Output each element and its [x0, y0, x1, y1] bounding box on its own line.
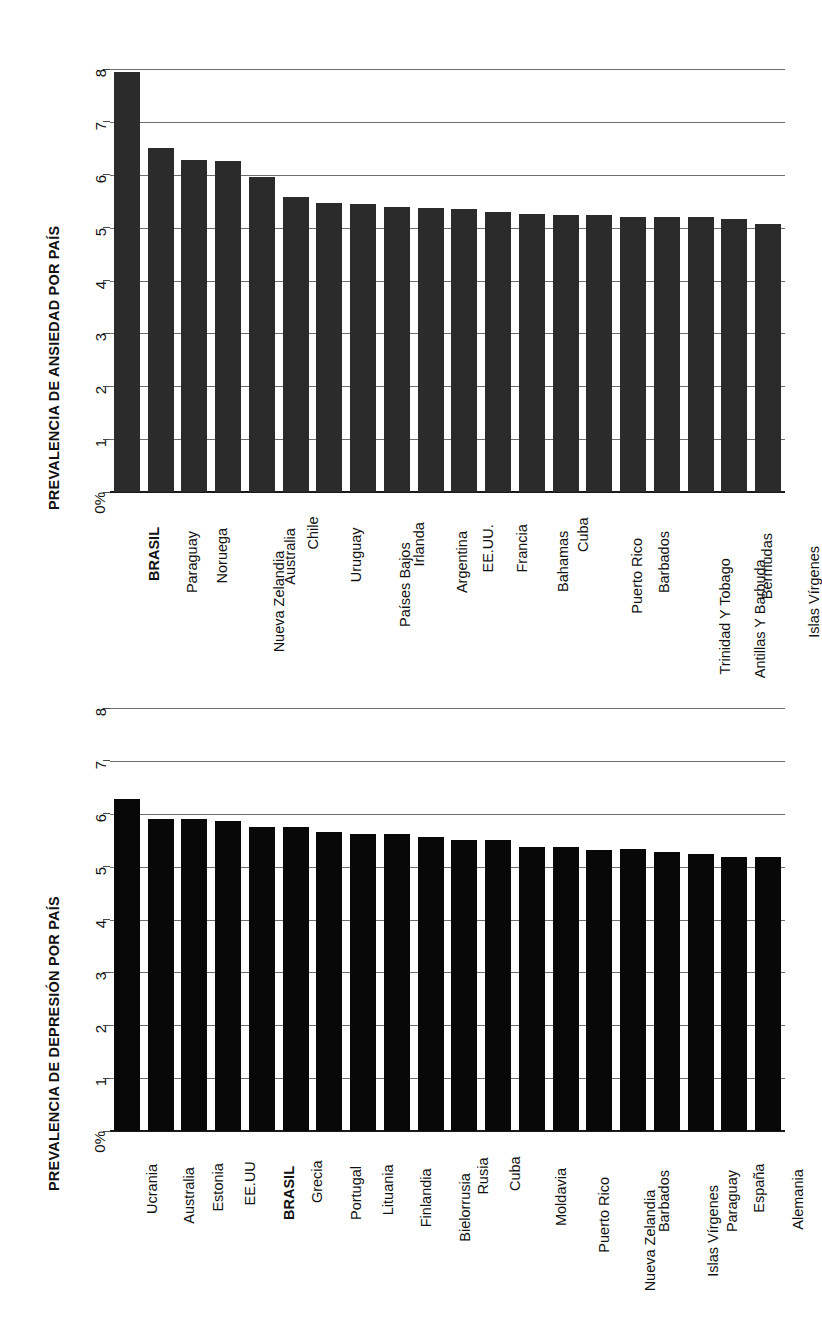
bar-depression-moldavia: [519, 847, 545, 1131]
bar-slot: [684, 69, 718, 492]
category-label: Moldavia: [553, 1168, 569, 1226]
bar-anxiety-islas-v-rgenes: [755, 224, 781, 492]
bar-anxiety-puerto-rico: [586, 215, 612, 492]
category-label: BRASIL: [146, 527, 162, 581]
bar-slot: [583, 708, 617, 1131]
bar-anxiety-barbados: [620, 217, 646, 492]
bar-depression-barbados: [620, 849, 646, 1131]
bar-slot: [616, 708, 650, 1131]
bar-anxiety-trinidad-y-tobago: [654, 217, 680, 492]
bar-anxiety-nueva-zelandia: [215, 161, 241, 492]
category-label: Uruguay: [349, 527, 365, 582]
bar-slot: [346, 69, 380, 492]
category-label: Rusia: [475, 1158, 491, 1195]
chart-depression-plot-area: 0%12345678: [110, 708, 785, 1131]
bar-slot: [684, 708, 718, 1131]
category-label: Barbados: [656, 531, 672, 593]
bar-anxiety-argentina: [418, 208, 444, 492]
category-label: Lituania: [381, 1164, 397, 1215]
category-label: Australia: [181, 1167, 197, 1223]
bar-slot: [751, 708, 785, 1131]
bar-slot: [549, 708, 583, 1131]
bar-slot: [583, 69, 617, 492]
bar-depression-portugal: [316, 832, 342, 1131]
category-label: Portugal: [348, 1166, 364, 1220]
bar-slot: [313, 69, 347, 492]
chart-anxiety-bars: [110, 69, 785, 492]
bar-slot: [751, 69, 785, 492]
category-label: Islas Vírgenes: [705, 1185, 721, 1277]
y-tick-label: 7: [92, 122, 109, 130]
y-tick-label: 4: [92, 920, 109, 928]
bar-depression-australia: [148, 819, 174, 1131]
bar-depression-puerto-rico: [553, 847, 579, 1131]
chart-anxiety-title: PREVALENCIA DE ANSIEDAD POR PAÍS: [46, 226, 62, 510]
bar-slot: [380, 708, 414, 1131]
bar-slot: [448, 69, 482, 492]
bar-depression-nueva-zelandia: [586, 850, 612, 1131]
bar-slot: [144, 708, 178, 1131]
y-tick-label: 6: [92, 814, 109, 822]
bar-slot: [515, 708, 549, 1131]
bar-slot: [178, 69, 212, 492]
category-label: Finlandia: [418, 1168, 434, 1227]
bar-slot: [481, 69, 515, 492]
category-label: Paraguay: [724, 1170, 740, 1232]
bar-slot: [718, 708, 752, 1131]
category-label: Islas Vírgenes: [806, 546, 822, 638]
category-label: Chile: [304, 517, 320, 550]
category-label: Francia: [514, 524, 530, 572]
category-label: Paraguay: [184, 531, 200, 593]
category-label: EE.UU: [242, 1161, 258, 1205]
bar-anxiety-bahamas: [519, 214, 545, 492]
category-label: BRASIL: [281, 1166, 297, 1220]
category-label: Noruega: [214, 528, 230, 584]
bar-slot: [211, 69, 245, 492]
y-tick-label: 2: [92, 1025, 109, 1033]
y-tick-label: 5: [92, 867, 109, 875]
bar-depression-estonia: [181, 819, 207, 1131]
bar-anxiety-irlanda: [384, 207, 410, 492]
category-label: Irlanda: [411, 522, 427, 566]
y-tick-label: 5: [92, 228, 109, 236]
y-tick-label: 3: [92, 333, 109, 341]
bar-slot: [346, 708, 380, 1131]
bar-slot: [414, 708, 448, 1131]
category-label: Cuba: [575, 517, 591, 552]
category-label: España: [751, 1164, 767, 1213]
y-tick-label: 4: [92, 281, 109, 289]
category-label: Ucrania: [144, 1164, 160, 1214]
bar-depression-ucrania: [114, 799, 140, 1131]
bar-slot: [414, 69, 448, 492]
bar-anxiety-uruguay: [316, 203, 342, 492]
category-label: Alemania: [790, 1169, 806, 1229]
bar-anxiety-pa-ses-bajos: [350, 204, 376, 492]
bar-slot: [380, 69, 414, 492]
y-tick-label: 3: [92, 972, 109, 980]
category-label: Estonia: [211, 1163, 227, 1211]
bar-slot: [616, 69, 650, 492]
y-tick-label: 0%: [92, 1131, 109, 1153]
y-tick-label: 1: [92, 1078, 109, 1086]
y-tick-label: 7: [92, 761, 109, 769]
category-label: Bermudas: [759, 533, 775, 599]
bar-depression-paraguay: [688, 854, 714, 1131]
bar-depression-grecia: [283, 827, 309, 1131]
bar-anxiety-noruega: [181, 160, 207, 492]
y-tick-label: 8: [92, 708, 109, 716]
bar-slot: [178, 708, 212, 1131]
bar-anxiety-paraguay: [148, 148, 174, 492]
category-label: Trinidad Y Tobago: [717, 558, 733, 674]
bar-depression-cuba: [485, 840, 511, 1131]
bar-anxiety-antillas-y-barbuda: [688, 217, 714, 492]
chart-anxiety-plot-area: 0%12345678: [110, 69, 785, 492]
chart-depression: PREVALENCIA DE DEPRESIÓN POR PAÍS 0%1234…: [0, 671, 801, 1342]
bar-slot: [650, 708, 684, 1131]
category-label: EE.UU.: [481, 524, 497, 572]
chart-anxiety: PREVALENCIA DE ANSIEDAD POR PAÍS 0%12345…: [0, 0, 801, 671]
bar-slot: [144, 69, 178, 492]
bar-slot: [448, 708, 482, 1131]
y-tick-label: 0%: [92, 492, 109, 514]
category-label: Bahamas: [555, 531, 571, 592]
